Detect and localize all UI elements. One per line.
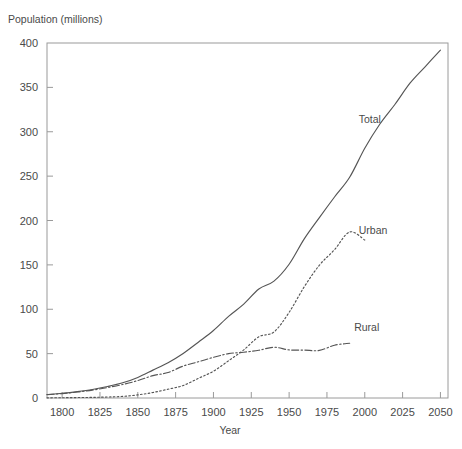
y-tick-label: 0 [32, 392, 38, 404]
y-axis-title: Population (millions) [8, 13, 103, 25]
y-tick-label: 100 [20, 303, 38, 315]
x-tick-label: 1900 [201, 406, 225, 418]
y-tick-label: 200 [20, 215, 38, 227]
x-axis-title: Year [219, 424, 241, 436]
y-tick-label: 350 [20, 81, 38, 93]
y-tick-label: 50 [26, 348, 38, 360]
x-tick-label: 2050 [428, 406, 452, 418]
series-line-total [47, 50, 440, 394]
population-line-chart: Population (millions) 050100150200250300… [0, 0, 462, 449]
series-label-total: Total [359, 113, 381, 125]
series-line-rural [47, 343, 350, 394]
x-tick-label: 1800 [50, 406, 74, 418]
x-axis-tick-labels: 1800182518501875190019251950197520002025… [50, 406, 453, 418]
y-tick-label: 150 [20, 259, 38, 271]
y-axis-tick-marks [47, 87, 53, 353]
series-label-rural: Rural [354, 321, 379, 333]
y-axis-tick-labels: 050100150200250300350400 [20, 37, 38, 404]
x-tick-label: 2025 [390, 406, 414, 418]
x-tick-label: 2000 [353, 406, 377, 418]
x-tick-label: 1925 [239, 406, 263, 418]
chart-canvas: Population (millions) 050100150200250300… [0, 0, 462, 449]
y-tick-label: 250 [20, 170, 38, 182]
x-tick-label: 1950 [277, 406, 301, 418]
x-tick-label: 1850 [126, 406, 150, 418]
x-tick-label: 1825 [88, 406, 112, 418]
y-tick-label: 400 [20, 37, 38, 49]
series-label-urban: Urban [359, 224, 388, 236]
y-tick-label: 300 [20, 126, 38, 138]
series-inline-labels: TotalUrbanRural [354, 113, 387, 334]
series-line-urban [47, 232, 365, 398]
plot-area-border [47, 43, 448, 398]
x-tick-label: 1975 [315, 406, 339, 418]
x-tick-label: 1875 [163, 406, 187, 418]
